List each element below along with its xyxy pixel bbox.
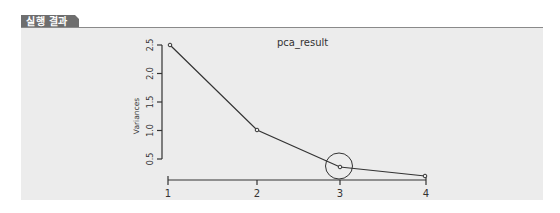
svg-text:4: 4 <box>423 188 429 199</box>
svg-text:2.0: 2.0 <box>146 67 155 80</box>
svg-text:1.5: 1.5 <box>146 96 155 109</box>
svg-text:1.0: 1.0 <box>146 124 155 137</box>
chart-title: pca_result <box>277 37 328 49</box>
y-axis-label: Variances <box>132 98 141 134</box>
svg-text:2: 2 <box>254 188 260 199</box>
data-points <box>168 43 427 178</box>
variance-line <box>170 45 425 176</box>
svg-text:2.5: 2.5 <box>146 39 155 52</box>
svg-text:1: 1 <box>165 188 171 199</box>
y-tick-labels: 0.5 1.0 1.5 2.0 2.5 <box>146 39 155 166</box>
scree-plot: pca_result 0.5 1.0 1.5 2.0 2.5 Variances… <box>0 0 560 213</box>
y-axis <box>157 45 162 159</box>
svg-text:3: 3 <box>337 188 343 199</box>
x-axis <box>168 176 426 185</box>
svg-text:0.5: 0.5 <box>146 153 155 166</box>
x-tick-labels: 1 2 3 4 <box>165 188 429 199</box>
